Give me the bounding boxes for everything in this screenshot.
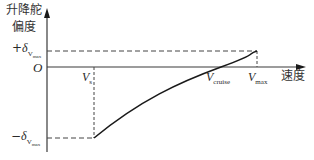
x-axis-label: 速度 xyxy=(281,70,305,82)
origin-label: O xyxy=(33,61,42,74)
vcruise-label: Vcruise xyxy=(206,71,230,83)
deflection-curve xyxy=(94,51,257,138)
minus-delta-label: −δVmax xyxy=(11,130,40,142)
y-axis-arrow-icon xyxy=(44,8,50,18)
vs-label: Vs xyxy=(82,71,92,83)
y-axis-label-line1: 升降舵 xyxy=(6,4,42,16)
vmax-label: Vmax xyxy=(248,71,267,83)
plus-delta-label: +δVmax xyxy=(12,42,41,54)
y-axis-label-line2: 偏度 xyxy=(12,21,36,33)
